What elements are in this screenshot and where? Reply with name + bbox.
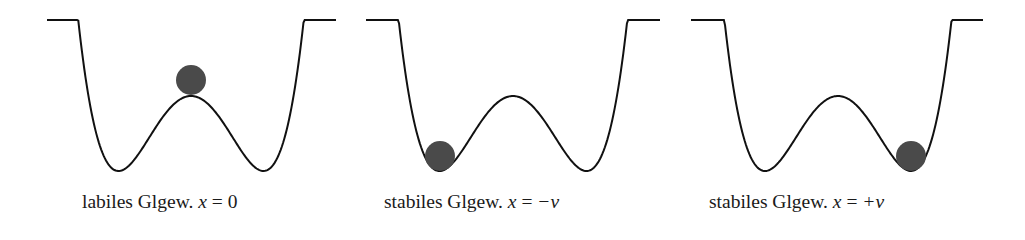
caption-text: labiles Glgew.: [82, 191, 193, 212]
caption-value: +v: [862, 191, 884, 212]
panel-stable-plus: [691, 20, 983, 171]
potential-curve: [691, 20, 983, 171]
ball: [425, 141, 455, 171]
caption-variable: x: [833, 191, 842, 212]
caption-variable: x: [508, 191, 517, 212]
caption-equals: =: [846, 191, 857, 212]
caption-stable-minus: stabiles Glgew. x = −v: [384, 191, 559, 213]
caption-value: 0: [228, 191, 238, 212]
potential-curve: [47, 20, 336, 171]
caption-labile: labiles Glgew. x = 0: [82, 191, 237, 213]
panel-labile: [47, 20, 336, 171]
panel-stable-minus: [366, 20, 660, 171]
caption-equals: =: [212, 191, 223, 212]
caption-text: stabiles Glgew.: [384, 191, 503, 212]
potential-curve: [366, 20, 660, 171]
ball: [896, 141, 926, 171]
caption-value: −v: [537, 191, 559, 212]
caption-stable-plus: stabiles Glgew. x = +v: [709, 191, 884, 213]
caption-variable: x: [198, 191, 207, 212]
ball: [176, 65, 206, 95]
caption-equals: =: [521, 191, 532, 212]
caption-text: stabiles Glgew.: [709, 191, 828, 212]
